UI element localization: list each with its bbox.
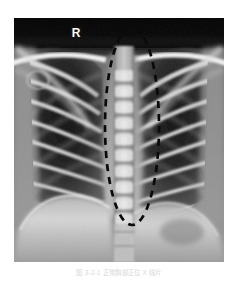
chest-xray-image: R (14, 18, 224, 262)
figure-root: R 图 3-2-1 正常胸部正位 X 线片 (0, 0, 238, 282)
figure-caption: 图 3-2-1 正常胸部正位 X 线片 (14, 268, 224, 277)
xray-render-surface: R (14, 18, 224, 262)
film-grain-overlay (14, 18, 224, 262)
